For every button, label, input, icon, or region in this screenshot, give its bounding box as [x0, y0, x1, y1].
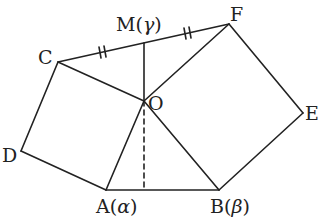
- label-M: M(γ): [116, 13, 162, 35]
- label-D: D: [2, 144, 17, 166]
- segment-DA: [21, 151, 106, 190]
- diagram-svg: C D E F O M(γ) A(α) B(β): [0, 0, 325, 219]
- segment-BE: [219, 113, 303, 190]
- segment-AO: [106, 101, 144, 190]
- label-C: C: [38, 46, 53, 68]
- label-O: O: [148, 92, 164, 114]
- label-B: B(β): [210, 195, 250, 217]
- segment-FO: [144, 24, 229, 101]
- segment-CD: [21, 62, 58, 151]
- geometry-diagram: C D E F O M(γ) A(α) B(β): [0, 0, 325, 219]
- segment-EF: [229, 24, 303, 113]
- label-F: F: [230, 3, 243, 25]
- segment-BO: [144, 101, 219, 190]
- label-A: A(α): [95, 195, 137, 217]
- label-E: E: [305, 102, 319, 124]
- segment-CO: [58, 62, 144, 101]
